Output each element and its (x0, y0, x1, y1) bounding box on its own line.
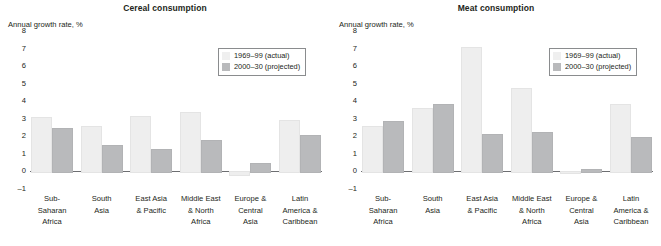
x-tick-label: Sub-SaharanAfrica (359, 193, 407, 228)
y-tick-label: 6 (22, 62, 26, 70)
legend: 1969–99 (actual)2000–30 (projected) (218, 48, 306, 76)
bar-actual (180, 112, 201, 174)
bar-projected (250, 163, 271, 174)
bar-group (80, 31, 124, 189)
bar-group (460, 31, 504, 189)
y-tick-label: 8 (22, 27, 26, 35)
y-tick-label: 6 (353, 62, 357, 70)
legend-label: 2000–30 (projected) (565, 62, 631, 73)
y-tick-label: 2 (22, 133, 26, 141)
y-tick-label: 4 (353, 97, 357, 105)
bar-actual (279, 120, 300, 174)
y-tick-label: 7 (353, 45, 357, 53)
bar-actual (362, 126, 383, 174)
panel-title: Meat consumption (331, 3, 661, 13)
x-tick-label: LatinAmerica &Caribbean (276, 193, 324, 228)
bar-actual (229, 171, 250, 176)
bar-group (510, 31, 554, 189)
bar-projected (433, 104, 454, 174)
y-tick-label: 0 (22, 168, 26, 176)
panel-title: Cereal consumption (0, 3, 330, 13)
y-tick-label: 4 (22, 97, 26, 105)
bar-group (129, 31, 173, 189)
bar-projected (201, 140, 222, 174)
bar-projected (102, 145, 123, 173)
bar-group (30, 31, 74, 189)
figure-two-panel-bar-charts: Cereal consumption Annual growth rate, %… (0, 0, 661, 246)
bar-group (179, 31, 223, 189)
bar-actual (412, 108, 433, 173)
y-tick-label: 8 (353, 27, 357, 35)
bar-actual (560, 171, 581, 174)
legend-item: 1969–99 (actual) (222, 51, 300, 62)
legend-swatch-projected (222, 63, 230, 71)
legend-item: 2000–30 (projected) (222, 62, 300, 73)
panel-meat-consumption: Meat consumption Annual growth rate, % 8… (331, 0, 661, 246)
y-axis-label: Annual growth rate, % (8, 20, 83, 29)
x-tick-label: Middle East& NorthAfrica (177, 193, 225, 228)
y-tick-label: –1 (349, 185, 357, 193)
x-tick-label: SouthAsia (78, 193, 126, 228)
x-axis-labels: Sub-SaharanAfricaSouthAsiaEast Asia& Pac… (30, 193, 322, 228)
x-tick-label: LatinAmerica &Caribbean (607, 193, 655, 228)
bar-projected (482, 134, 503, 174)
bar-projected (631, 137, 652, 173)
y-tick-label: 7 (22, 45, 26, 53)
panel-cereal-consumption: Cereal consumption Annual growth rate, %… (0, 0, 330, 246)
legend-swatch-actual (222, 52, 230, 60)
x-axis-labels: Sub-SaharanAfricaSouthAsiaEast Asia& Pac… (361, 193, 653, 228)
y-tick-label: 1 (22, 150, 26, 158)
bar-actual (31, 117, 52, 173)
y-tick-label: 3 (353, 115, 357, 123)
bar-group (361, 31, 405, 189)
bar-projected (52, 128, 73, 173)
legend-swatch-actual (553, 52, 561, 60)
legend-swatch-projected (553, 63, 561, 71)
y-tick-label: 5 (22, 80, 26, 88)
bar-group (411, 31, 455, 189)
bar-projected (383, 121, 404, 173)
bar-actual (81, 126, 102, 174)
y-tick-label: 5 (353, 80, 357, 88)
x-tick-label: Europe &CentralAsia (226, 193, 274, 228)
bar-actual (511, 88, 532, 173)
bar-actual (461, 47, 482, 174)
legend: 1969–99 (actual)2000–30 (projected) (549, 48, 637, 76)
y-tick-label: –1 (18, 185, 26, 193)
y-tick-label: 3 (22, 115, 26, 123)
bar-projected (300, 135, 321, 174)
legend-label: 1969–99 (actual) (234, 51, 289, 62)
bar-actual (130, 116, 151, 173)
bar-projected (151, 149, 172, 174)
y-tick-label: 0 (353, 168, 357, 176)
x-tick-label: Europe &CentralAsia (557, 193, 605, 228)
legend-label: 2000–30 (projected) (234, 62, 300, 73)
y-tick-label: 2 (353, 133, 357, 141)
x-tick-label: Middle East& NorthAfrica (508, 193, 556, 228)
x-tick-label: East Asia& Pacific (127, 193, 175, 228)
legend-label: 1969–99 (actual) (565, 51, 620, 62)
x-tick-label: SouthAsia (409, 193, 457, 228)
y-tick-label: 1 (353, 150, 357, 158)
y-axis-label: Annual growth rate, % (339, 20, 414, 29)
bar-projected (581, 169, 602, 173)
x-tick-label: East Asia& Pacific (458, 193, 506, 228)
legend-item: 1969–99 (actual) (553, 51, 631, 62)
x-tick-label: Sub-SaharanAfrica (28, 193, 76, 228)
bar-actual (610, 104, 631, 174)
legend-item: 2000–30 (projected) (553, 62, 631, 73)
bar-projected (532, 132, 553, 174)
